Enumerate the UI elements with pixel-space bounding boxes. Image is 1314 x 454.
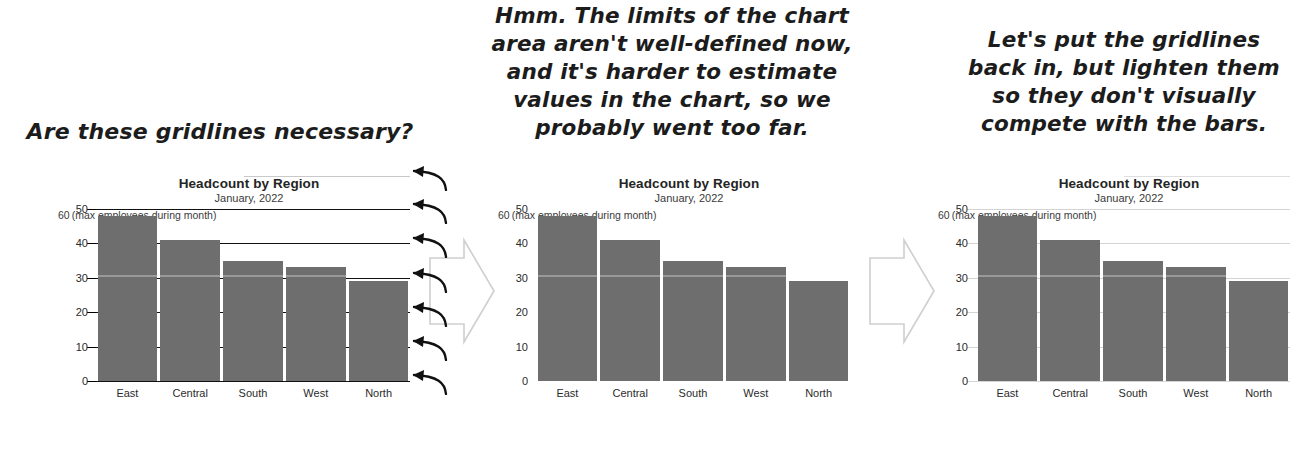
chart-3-bar-group-central: Central (1040, 209, 1100, 381)
chart-panel-1: Headcount by Region January, 2022 60(max… (48, 176, 428, 426)
chart-3-title: Headcount by Region (928, 176, 1308, 191)
chart-1-ylabel-50: 50 (76, 203, 88, 215)
chart-3-catlabel-central: Central (1040, 387, 1100, 399)
chart-2-bar-group-central: Central (600, 209, 660, 381)
chart-3-plot: 50 40 30 20 10 0 East Central (938, 209, 1290, 405)
chart-3-gridline-0 (976, 381, 1290, 382)
gridline-pointer-arrow-50-icon (410, 198, 450, 228)
chart-3-tick-10 (967, 347, 976, 348)
chart-1-plot-area: 50 40 30 20 10 0 East Central (96, 209, 410, 381)
chart-1-bar-group-south: South (223, 209, 283, 381)
chart-1-bar-west (286, 267, 346, 381)
chart-3-tick-30 (967, 278, 976, 279)
gridline-pointer-arrow-60-icon (410, 165, 450, 195)
chart-3-bar-south (1103, 261, 1163, 381)
chart-2-ylabel-10: 10 (516, 341, 528, 353)
chart-panel-3: Headcount by Region January, 2022 60(max… (928, 176, 1308, 426)
chart-1-catlabel-north: North (349, 387, 409, 399)
chart-1-gridline-60 (244, 176, 410, 177)
chart-3-ylabel-0: 0 (962, 375, 968, 387)
chart-3-ylabel-40: 40 (956, 237, 968, 249)
chart-2-catlabel-south: South (663, 387, 723, 399)
annotation-left: Are these gridlines necessary? (20, 118, 420, 147)
chart-2-catlabel-east: East (538, 387, 598, 399)
chart-3-bar-east (978, 216, 1038, 381)
annotation-middle: Hmm. The limits of the chart area aren't… (466, 2, 878, 142)
chart-1-title: Headcount by Region (48, 176, 428, 191)
chart-1-ylabel-10: 10 (76, 341, 88, 353)
chart-1-catlabel-west: West (286, 387, 346, 399)
chart-3-catlabel-east: East (978, 387, 1038, 399)
chart-2-ylabel-50: 50 (516, 203, 528, 215)
chart-1-tick-0 (87, 381, 96, 382)
chart-1-ylabel-40: 40 (76, 237, 88, 249)
chart-2-bar-group-south: South (663, 209, 723, 381)
chart-2-plot-area: 50 40 30 20 10 0 East Central (536, 209, 850, 381)
annotation-right: Let's put the gridlines back in, but lig… (944, 26, 1304, 138)
chart-1-catlabel-south: South (223, 387, 283, 399)
chart-2-bars: East Central South West (536, 209, 850, 381)
chart-3-bar-group-south: South (1103, 209, 1163, 381)
chart-3-ylabel-20: 20 (956, 306, 968, 318)
chart-2-ylabel-20: 20 (516, 306, 528, 318)
chart-1-tick-50 (87, 209, 96, 210)
chart-1-subtitle: January, 2022 (48, 192, 428, 204)
gridline-pointer-arrow-0-icon (410, 369, 450, 399)
chart-3-gridline-60 (1124, 176, 1290, 177)
chart-3-ylabel-10: 10 (956, 341, 968, 353)
chart-3-tick-20 (967, 312, 976, 313)
chart-3-bars: East Central South West (976, 209, 1290, 381)
chart-3-tick-50 (967, 209, 976, 210)
chart-3-bar-west (1166, 267, 1226, 381)
chart-1-catlabel-east: East (98, 387, 158, 399)
chart-2-ylabel-30: 30 (516, 272, 528, 284)
chart-3-catlabel-south: South (1103, 387, 1163, 399)
gridline-pointer-arrow-10-icon (410, 335, 450, 365)
chart-2-bar-north (789, 281, 849, 381)
chart-3-bar-group-north: North (1229, 209, 1289, 381)
chart-1-bar-north (349, 281, 409, 381)
chart-2-bar-west (726, 267, 786, 381)
chart-2-ylabel-40: 40 (516, 237, 528, 249)
chart-3-ylabel-50: 50 (956, 203, 968, 215)
chart-2-bar-east (538, 216, 598, 381)
chart-2-bar-group-east: East (538, 209, 598, 381)
chart-2-catlabel-north: North (789, 387, 849, 399)
chart-1-bar-group-north: North (349, 209, 409, 381)
chart-2-title: Headcount by Region (488, 176, 868, 191)
chart-1-bar-south (223, 261, 283, 381)
chart-1-plot: 50 40 30 20 10 0 East Central (58, 209, 410, 405)
chart-2-plot: 50 40 30 20 10 0 East Central (498, 209, 850, 405)
chart-3-catlabel-west: West (1166, 387, 1226, 399)
chart-1-tick-20 (87, 312, 96, 313)
slide-canvas: Are these gridlines necessary? Hmm. The … (0, 0, 1314, 454)
chart-2-bar-group-north: North (789, 209, 849, 381)
chart-1-bar-group-central: Central (160, 209, 220, 381)
chart-1-callout-arrows (410, 209, 454, 405)
chart-panel-2: Headcount by Region January, 2022 60(max… (488, 176, 868, 426)
chart-1-tick-30 (87, 278, 96, 279)
chart-3-tick-40 (967, 243, 976, 244)
chart-3-bar-group-west: West (1166, 209, 1226, 381)
chart-1-bar-central (160, 240, 220, 381)
chart-1-catlabel-central: Central (160, 387, 220, 399)
gridline-pointer-arrow-30-icon (410, 267, 450, 297)
step-arrow-2-icon (864, 236, 938, 350)
chart-1-tick-40 (87, 243, 96, 244)
gridline-pointer-arrow-40-icon (410, 232, 450, 262)
chart-3-tick-0 (967, 381, 976, 382)
chart-2-catlabel-west: West (726, 387, 786, 399)
chart-1-ylabel-20: 20 (76, 306, 88, 318)
chart-3-plot-area: 50 40 30 20 10 0 East Central (976, 209, 1290, 381)
chart-1-bar-east (98, 216, 158, 381)
chart-2-subtitle: January, 2022 (488, 192, 868, 204)
chart-1-bars: East Central South West (96, 209, 410, 381)
chart-2-bar-central (600, 240, 660, 381)
chart-2-ylabel-0: 0 (522, 375, 528, 387)
chart-1-bar-group-east: East (98, 209, 158, 381)
chart-1-ylabel-30: 30 (76, 272, 88, 284)
chart-3-bar-group-east: East (978, 209, 1038, 381)
chart-3-ylabel-30: 30 (956, 272, 968, 284)
chart-1-ylabel-0: 0 (82, 375, 88, 387)
chart-3-bar-north (1229, 281, 1289, 381)
